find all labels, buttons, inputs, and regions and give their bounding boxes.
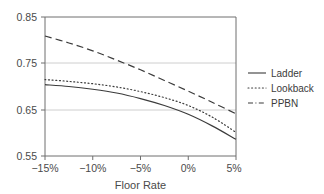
chart-figure: 0.85 0.75 0.65 0.55 −15% −10% −5% 0% 5% … — [0, 0, 324, 194]
x-tick-label-3: 0% — [181, 162, 196, 174]
x-axis-title: Floor Rate — [115, 179, 166, 191]
y-tick-label-1: 0.75 — [17, 57, 38, 69]
y-tick-label-0: 0.85 — [17, 11, 38, 23]
legend-label-ppbn: PPBN — [271, 98, 298, 109]
y-tick-label-2: 0.65 — [17, 104, 38, 116]
line-chart: 0.85 0.75 0.65 0.55 −15% −10% −5% 0% 5% … — [0, 0, 324, 194]
legend: Ladder Lookback PPBN — [248, 68, 315, 109]
x-tick-label-0: −15% — [31, 162, 58, 174]
legend-label-lookback: Lookback — [271, 83, 315, 94]
y-tick-label-3: 0.55 — [17, 150, 38, 162]
legend-label-ladder: Ladder — [271, 68, 303, 79]
x-tick-label-1: −10% — [79, 162, 106, 174]
x-tick-label-4: 5% — [226, 162, 241, 174]
x-axis-ticks — [45, 156, 236, 160]
y-axis-ticks — [41, 17, 45, 156]
x-tick-label-2: −5% — [130, 162, 151, 174]
